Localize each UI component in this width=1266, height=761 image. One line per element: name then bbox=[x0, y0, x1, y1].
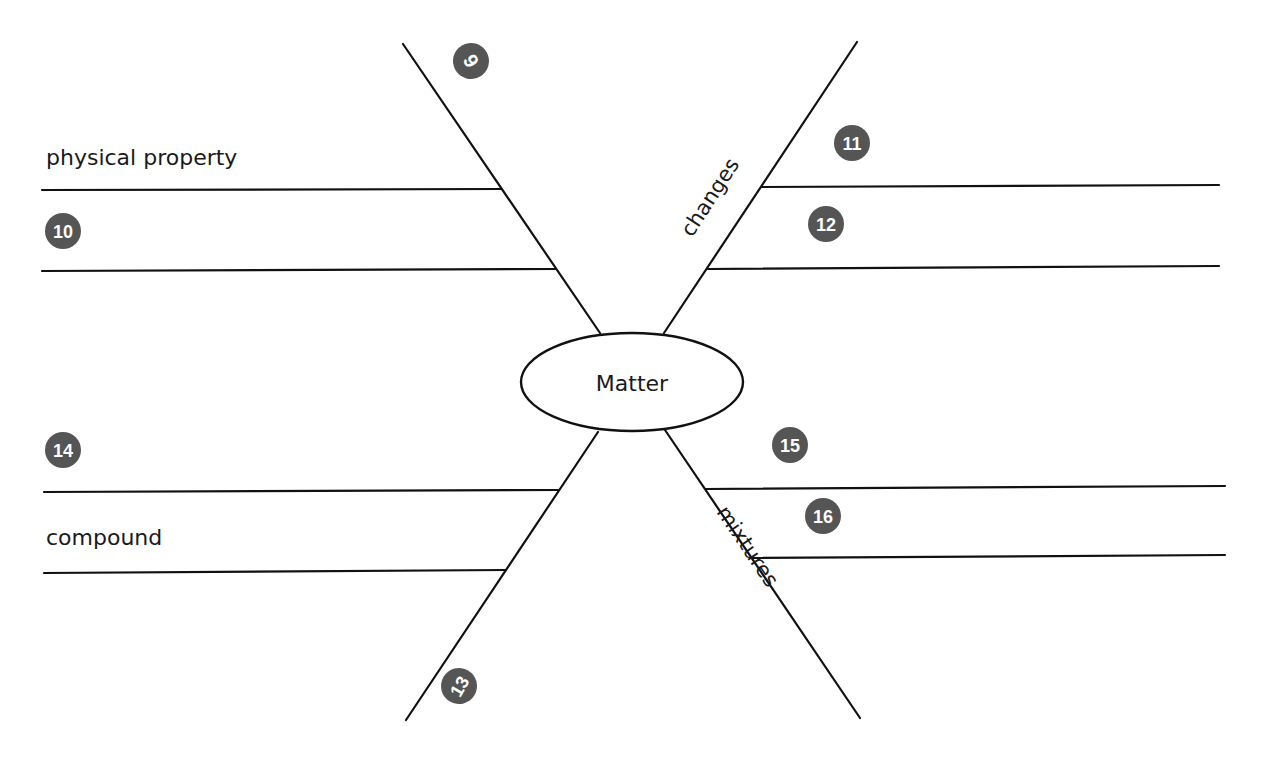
spider-map: Matter physical property compound change… bbox=[0, 0, 1266, 761]
badge-15: 15 bbox=[772, 427, 808, 463]
label-compound: compound bbox=[46, 525, 162, 550]
leg-label-mixtures: mixtures bbox=[712, 501, 784, 591]
line-bottom-left-2 bbox=[44, 570, 506, 573]
line-bottom-left-1 bbox=[44, 490, 559, 492]
svg-text:10: 10 bbox=[53, 222, 73, 242]
badge-14: 14 bbox=[45, 432, 81, 468]
badge-13: 13 bbox=[434, 661, 483, 710]
line-top-right-2 bbox=[708, 266, 1219, 269]
line-top-left-2 bbox=[42, 269, 555, 271]
line-bottom-right-1 bbox=[706, 486, 1225, 489]
svg-text:15: 15 bbox=[780, 436, 800, 456]
badge-10: 10 bbox=[45, 213, 81, 249]
badge-12: 12 bbox=[808, 206, 844, 242]
svg-text:14: 14 bbox=[53, 441, 73, 461]
badge-6: 6 bbox=[446, 36, 495, 85]
line-top-right-1 bbox=[762, 185, 1219, 187]
label-physical-property: physical property bbox=[46, 145, 237, 170]
svg-text:12: 12 bbox=[816, 215, 836, 235]
svg-text:16: 16 bbox=[813, 507, 833, 527]
line-top-left-1 bbox=[42, 189, 501, 190]
badge-11: 11 bbox=[834, 125, 870, 161]
badge-16: 16 bbox=[805, 498, 841, 534]
center-label: Matter bbox=[596, 371, 669, 396]
line-bottom-right-2 bbox=[753, 555, 1225, 558]
leg-bottom-left bbox=[406, 432, 598, 720]
svg-text:11: 11 bbox=[842, 134, 861, 154]
